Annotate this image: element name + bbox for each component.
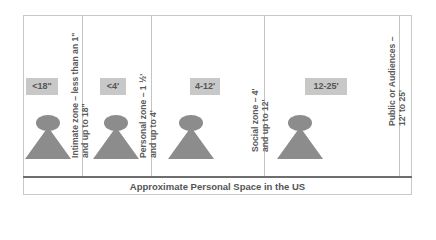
person-body (168, 127, 214, 159)
zone-description-intimate: Intimate zone – less than an 1" and up t… (70, 33, 90, 158)
diagram-caption: Approximate Personal Space in the US (23, 178, 412, 195)
person-icon (277, 115, 323, 161)
person-icon (93, 115, 139, 161)
zone-description-social: Social zone – 4' and up to 12' (250, 88, 270, 152)
zone-label-intimate: <18" (26, 78, 58, 95)
zone-description-line1: Intimate zone – less than an 1" (70, 33, 80, 158)
person-icon (25, 115, 71, 161)
zone-description-line2: and up to 4' (148, 74, 158, 158)
zone-description-line2: and up to 18" (80, 33, 90, 158)
zone-description-line1: Public or Audiences – (387, 37, 397, 126)
zone-label-social: 4-12' (190, 78, 220, 95)
zone-description-line1: Social zone – 4' (250, 88, 260, 152)
zone-label-personal: <4' (100, 78, 126, 95)
zone-label-public: 12-25' (305, 78, 347, 95)
person-body (277, 127, 323, 159)
zone-description-line2: 12' to 25' (397, 37, 407, 126)
person-icon (168, 115, 214, 161)
zone-description-personal: Personal zone – 1 ½' and up to 4' (138, 74, 158, 158)
zone-description-line1: Personal zone – 1 ½' (138, 74, 148, 158)
person-body (25, 127, 71, 159)
person-body (93, 127, 139, 159)
zone-description-public: Public or Audiences – 12' to 25' (387, 37, 407, 126)
zone-description-line2: and up to 12' (260, 88, 270, 152)
